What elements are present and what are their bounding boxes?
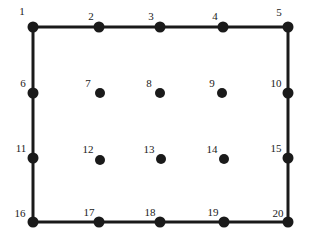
node-label-11: 11 bbox=[16, 143, 27, 154]
node-label-7: 7 bbox=[85, 78, 91, 89]
node-label-16: 16 bbox=[15, 208, 26, 219]
diagram-node-4[interactable] bbox=[218, 22, 229, 33]
diagram-node-2[interactable] bbox=[94, 22, 105, 33]
node-label-6: 6 bbox=[20, 78, 26, 89]
diagram-node-8[interactable] bbox=[155, 88, 165, 98]
node-label-14: 14 bbox=[207, 144, 218, 155]
node-diagram-figure: 1234567891011121314151617181920 bbox=[0, 0, 309, 241]
node-label-20: 20 bbox=[273, 208, 284, 219]
diagram-node-17[interactable] bbox=[94, 217, 105, 228]
diagram-node-6[interactable] bbox=[28, 88, 39, 99]
node-label-1: 1 bbox=[19, 6, 25, 17]
node-label-3: 3 bbox=[148, 11, 154, 22]
node-layer bbox=[28, 22, 294, 228]
diagram-node-10[interactable] bbox=[283, 88, 294, 99]
diagram-node-9[interactable] bbox=[217, 88, 227, 98]
diagram-node-16[interactable] bbox=[28, 217, 39, 228]
diagram-node-5[interactable] bbox=[283, 22, 294, 33]
node-label-5: 5 bbox=[276, 7, 282, 18]
edge-layer bbox=[33, 27, 288, 222]
diagram-node-15[interactable] bbox=[283, 153, 294, 164]
node-label-18: 18 bbox=[145, 207, 156, 218]
node-label-12: 12 bbox=[83, 144, 94, 155]
node-label-2: 2 bbox=[88, 11, 94, 22]
diagram-node-3[interactable] bbox=[155, 22, 166, 33]
diagram-node-20[interactable] bbox=[283, 217, 294, 228]
node-label-15: 15 bbox=[271, 143, 282, 154]
diagram-node-12[interactable] bbox=[95, 155, 105, 165]
node-label-4: 4 bbox=[212, 11, 218, 22]
node-label-9: 9 bbox=[209, 78, 215, 89]
diagram-node-14[interactable] bbox=[219, 154, 229, 164]
node-label-19: 19 bbox=[208, 207, 219, 218]
diagram-node-19[interactable] bbox=[219, 217, 230, 228]
node-label-17: 17 bbox=[84, 207, 95, 218]
diagram-node-7[interactable] bbox=[95, 88, 105, 98]
diagram-node-18[interactable] bbox=[155, 217, 166, 228]
diagram-node-11[interactable] bbox=[28, 153, 39, 164]
diagram-node-1[interactable] bbox=[28, 22, 39, 33]
diagram-node-13[interactable] bbox=[156, 154, 166, 164]
node-label-8: 8 bbox=[146, 78, 152, 89]
node-label-13: 13 bbox=[144, 144, 155, 155]
node-label-10: 10 bbox=[271, 78, 282, 89]
